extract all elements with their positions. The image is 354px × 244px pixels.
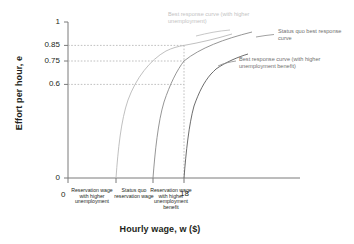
y-tick-label-1: 1: [34, 18, 60, 26]
x-axis-ticks: [68, 178, 184, 183]
curve-higher-unemployment: [116, 34, 232, 178]
guide-lines-horizontal: [68, 45, 184, 84]
x-tick-label-reservation-wage-higher-unemployment: Reservation wage with higher unemploymen…: [67, 188, 117, 205]
x-origin-label: 0: [61, 190, 65, 199]
x-axis-title: Hourly wage, w ($): [60, 224, 260, 234]
curve-status-quo: [153, 32, 252, 178]
annotation-status-quo: Status quo best response curve: [278, 28, 350, 42]
chart-container: 1 0.85 0.75 0.6 0 Effort per hour, e 0 1…: [0, 0, 354, 244]
y-tick-label-0.75: 0.75: [34, 57, 60, 65]
annotation-higher-benefit: Best response curve (with higher unemplo…: [239, 56, 351, 70]
y-tick-label-0.85: 0.85: [34, 41, 60, 49]
y-tick-label-0.6: 0.6: [34, 80, 60, 88]
y-tick-label-0: 0: [34, 174, 60, 182]
x-tick-label-reservation-wage-higher-benefit: Reservation wage with higher unemploymen…: [149, 188, 193, 210]
curve-higher-benefit: [184, 54, 248, 178]
y-axis-ticks: [64, 22, 68, 178]
annotation-higher-unemployment: Best response curve (with higher unemplo…: [168, 11, 256, 25]
y-axis-title: Effort per hour, e: [14, 38, 24, 148]
